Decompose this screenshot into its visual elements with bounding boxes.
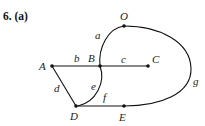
edge-label-d: d [54,82,60,94]
vertex-A [50,64,54,68]
vertex-label-E: E [118,111,126,123]
edge-label-f: f [103,91,108,103]
vertex-C [146,64,150,68]
graph-diagram: O A B C D E a b c d e f g [0,0,205,126]
vertex-B [98,64,102,68]
edge-label-b: b [74,52,80,64]
vertex-label-B: B [88,52,95,64]
vertex-label-A: A [38,60,46,72]
edge-label-e: e [91,80,96,92]
edge-e [78,66,102,106]
vertex-O [122,24,126,28]
vertex-label-D: D [69,110,78,122]
vertex-E [122,104,126,108]
vertex-label-C: C [152,53,160,65]
edge-label-a: a [95,29,101,41]
vertex-D [74,104,78,108]
edge-label-c: c [121,53,126,65]
edge-label-g: g [193,75,199,87]
vertex-label-O: O [120,10,128,22]
